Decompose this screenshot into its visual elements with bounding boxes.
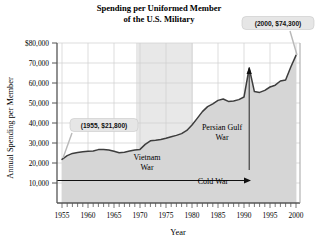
y-tick-label-70000: 70,000 <box>29 59 50 68</box>
x-tick-label-1975: 1975 <box>159 211 174 220</box>
x-tick-label-1965: 1965 <box>107 211 122 220</box>
x-tick-label-1985: 1985 <box>211 211 226 220</box>
x-tick-label-1995: 1995 <box>263 211 278 220</box>
persian-gulf-war-label-line-1: Persian Gulf <box>202 123 243 132</box>
annotation-1955-label: (1955, $21,800) <box>81 122 128 130</box>
y-tick-label-50000: 50,000 <box>29 99 50 108</box>
y-tick-label-30000: 30,000 <box>29 139 50 148</box>
annotation-2000-label: (2000, $74,300) <box>255 20 302 28</box>
chart-figure: Spending per Uniformed Member of the U.S… <box>0 0 318 247</box>
x-tick-label-1960: 1960 <box>81 211 96 220</box>
x-tick-label-2000: 2000 <box>289 211 304 220</box>
chart-title-line-1: Spending per Uniformed Member <box>97 3 222 13</box>
y-tick-label-40000: 40,000 <box>29 119 50 128</box>
x-tick-label-1970: 1970 <box>133 211 148 220</box>
y-tick-label-20000: 20,000 <box>29 159 50 168</box>
vietnam-war-label-line-1: Vietnam <box>133 153 161 162</box>
y-axis-label: Annual Spending per Member <box>6 77 15 179</box>
x-tick-label-1990: 1990 <box>237 211 252 220</box>
vietnam-war-label-line-2: War <box>140 163 153 172</box>
cold-war-label: Cold War <box>198 177 229 186</box>
x-axis-label: Year <box>170 228 186 237</box>
chart-title-line-2: of the U.S. Military <box>124 14 196 24</box>
persian-gulf-war-label-line-2: War <box>215 133 228 142</box>
spending-per-uniformed-member-chart: Spending per Uniformed Member of the U.S… <box>0 0 318 247</box>
y-tick-label-10000: 10,000 <box>29 179 50 188</box>
x-tick-label-1980: 1980 <box>185 211 200 220</box>
y-tick-label-60000: 60,000 <box>29 79 50 88</box>
x-tick-label-1955: 1955 <box>55 211 70 220</box>
y-tick-label-80000: $80,000 <box>25 39 49 48</box>
